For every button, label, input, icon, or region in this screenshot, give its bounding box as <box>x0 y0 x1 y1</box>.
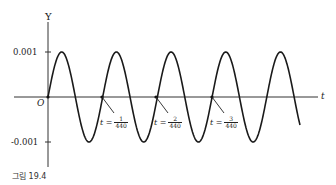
annotation-t2: t = 2 440 <box>154 116 182 129</box>
leader-line-1 <box>102 97 114 113</box>
leader-line-3 <box>212 97 224 113</box>
annotation-t2-prefix: t = <box>154 118 166 127</box>
annotation-t1-den: 440 <box>114 122 127 129</box>
annotation-t1-fraction: 1 440 <box>114 116 127 129</box>
annotation-t2-fraction: 2 440 <box>168 116 181 129</box>
leader-line-2 <box>156 97 168 113</box>
annotation-t3-prefix: t = <box>210 118 222 127</box>
annotation-t3-den: 440 <box>224 122 237 129</box>
crossing-dot-0 <box>46 95 49 98</box>
annotation-t1-prefix: t = <box>100 118 112 127</box>
annotation-t3: t = 3 440 <box>210 116 238 129</box>
y-axis-label: Y <box>45 12 52 22</box>
t-axis-label: t <box>321 92 325 101</box>
ytick-label-bottom: -0.001 <box>11 138 38 147</box>
annotation-t3-fraction: 3 440 <box>224 116 237 129</box>
annotation-t2-den: 440 <box>168 122 181 129</box>
ytick-label-top: 0.001 <box>13 48 37 57</box>
annotation-t1: t = 1 440 <box>100 116 128 129</box>
figure-caption: 그림 19.4 <box>12 170 46 181</box>
origin-label: O <box>37 99 44 108</box>
sine-wave-chart <box>0 0 336 185</box>
